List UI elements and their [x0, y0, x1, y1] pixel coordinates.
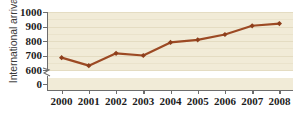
x-tick-mark — [62, 90, 63, 94]
y-tick-label: 900 — [12, 21, 42, 32]
chart-figure: International arrivals 10009008007006000… — [0, 0, 297, 115]
x-tick-mark — [116, 90, 117, 94]
y-tick-label: 0 — [12, 79, 42, 90]
x-tick-mark — [89, 90, 90, 94]
x-tick-mark — [198, 90, 199, 94]
y-tick-label: 1000 — [12, 7, 42, 18]
y-tick-label: 800 — [12, 36, 42, 47]
x-tick-mark — [225, 90, 226, 94]
x-tick-label: 2008 — [259, 96, 297, 107]
data-point-2000 — [59, 55, 64, 60]
y-tick-label: 700 — [12, 50, 42, 61]
data-point-2005 — [195, 37, 200, 42]
x-tick-mark — [279, 90, 280, 94]
x-tick-mark — [171, 90, 172, 94]
x-tick-mark — [143, 90, 144, 94]
data-point-2006 — [222, 32, 227, 37]
y-tick-label: 600 — [12, 65, 42, 76]
data-series-international-arrivals — [48, 12, 293, 90]
y-axis-tick-labels: 10009008007006000 — [12, 0, 42, 115]
x-tick-mark — [252, 90, 253, 94]
data-point-2007 — [250, 23, 255, 28]
data-markers — [59, 21, 282, 68]
data-point-2008 — [277, 21, 282, 26]
